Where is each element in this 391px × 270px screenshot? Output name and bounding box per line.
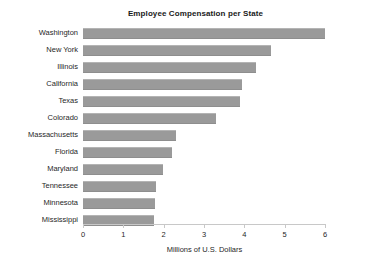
plot-area: WashingtonNew YorkIllinoisCaliforniaTexa… [83, 26, 325, 224]
bar [83, 96, 240, 107]
bar [83, 198, 155, 209]
x-axis-tick-label: 5 [273, 230, 297, 239]
category-label: Massachusetts [28, 128, 78, 141]
x-axis-tick-label: 4 [232, 230, 256, 239]
category-label: Tennessee [42, 179, 78, 192]
bar-row: Illinois [83, 60, 325, 77]
bar [83, 181, 156, 192]
bar [83, 28, 325, 39]
bar-row: Colorado [83, 111, 325, 128]
bar-chart: Employee Compensation per State Washingt… [0, 0, 391, 270]
category-label: Colorado [48, 111, 78, 124]
x-axis-tick [123, 224, 124, 228]
bar-row: California [83, 77, 325, 94]
category-label: Illinois [57, 60, 78, 73]
category-label: New York [46, 43, 78, 56]
bar [83, 147, 172, 158]
x-axis-tick-label: 0 [71, 230, 95, 239]
x-axis-tick [164, 224, 165, 228]
bar-row: Massachusetts [83, 128, 325, 145]
category-label: Florida [55, 145, 78, 158]
bar-row: Tennessee [83, 179, 325, 196]
x-axis-tick [325, 224, 326, 228]
x-axis-title: Millions of U.S. Dollars [83, 245, 326, 254]
bar [83, 130, 176, 141]
bar-row: Florida [83, 145, 325, 162]
bar [83, 62, 256, 73]
x-axis-tick-label: 1 [111, 230, 135, 239]
x-axis-tick-label: 6 [313, 230, 337, 239]
category-label: Maryland [47, 162, 78, 175]
category-label: California [46, 77, 78, 90]
bar-row: Minnesota [83, 196, 325, 213]
bar-row: New York [83, 43, 325, 60]
bar [83, 79, 242, 90]
bar [83, 45, 271, 56]
bar-row: Texas [83, 94, 325, 111]
bar [83, 164, 163, 175]
x-axis-tick [244, 224, 245, 228]
bar-row: Maryland [83, 162, 325, 179]
category-label: Washington [39, 26, 78, 39]
bar [83, 113, 216, 124]
x-axis-tick [285, 224, 286, 228]
x-axis-tick-label: 3 [192, 230, 216, 239]
x-axis-tick [83, 224, 84, 228]
category-label: Mississippi [42, 213, 78, 226]
category-label: Minnesota [43, 196, 78, 209]
bar-row: Washington [83, 26, 325, 43]
category-label: Texas [58, 94, 78, 107]
chart-title: Employee Compensation per State [0, 9, 391, 18]
x-axis-tick-label: 2 [152, 230, 176, 239]
x-axis-tick [204, 224, 205, 228]
